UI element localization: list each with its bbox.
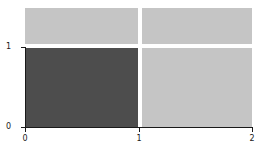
y-tick-mark-0 (21, 127, 25, 128)
x-tick-label-1: 1 (136, 134, 141, 144)
mosaic-tile-bottom-right (142, 48, 252, 127)
y-tick-label-0: 0 (6, 122, 11, 132)
mosaic-tile-top-right (142, 8, 252, 44)
x-tick-label-0: 0 (22, 134, 27, 144)
y-tick-label-1: 1 (6, 42, 11, 52)
mosaic-tile-top-left (25, 8, 138, 44)
x-tick-mark-2 (252, 128, 253, 132)
x-tick-mark-1 (139, 128, 140, 132)
x-tick-label-2: 2 (249, 134, 254, 144)
plot-area (25, 8, 252, 127)
y-axis-spine (25, 47, 26, 128)
x-tick-mark-0 (25, 128, 26, 132)
chart-figure: 0 1 2 0 1 (0, 0, 262, 154)
y-tick-mark-1 (21, 47, 25, 48)
mosaic-tile-bottom-left (25, 48, 138, 127)
